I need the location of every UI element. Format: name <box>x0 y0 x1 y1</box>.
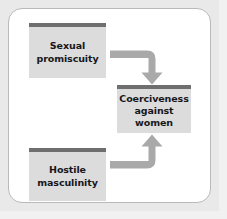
node-label: Hostile masculinity <box>34 160 101 188</box>
node-sexual-promiscuity[interactable]: Sexual promiscuity <box>29 23 106 78</box>
node-label-line-1: Coerciveness <box>119 93 188 105</box>
node-label: Coerciveness against women <box>116 89 191 129</box>
node-accent-bar <box>29 23 106 27</box>
node-label-line-1: Hostile <box>37 164 98 176</box>
diagram-canvas: Sexual promiscuity Coerciveness against … <box>0 0 227 219</box>
node-label-line-2: against <box>119 105 188 117</box>
node-hostile-masculinity[interactable]: Hostile masculinity <box>29 148 106 201</box>
node-label-line-2: masculinity <box>37 177 98 189</box>
node-accent-bar <box>29 148 106 152</box>
node-label-line-1: Sexual <box>36 40 98 52</box>
canvas-edge-bottom <box>0 211 227 219</box>
node-coerciveness-against-women[interactable]: Coerciveness against women <box>117 85 191 133</box>
node-label-line-3: women <box>119 117 188 129</box>
node-label: Sexual promiscuity <box>33 36 101 64</box>
node-label-line-2: promiscuity <box>36 53 98 65</box>
canvas-edge-right <box>219 0 227 219</box>
